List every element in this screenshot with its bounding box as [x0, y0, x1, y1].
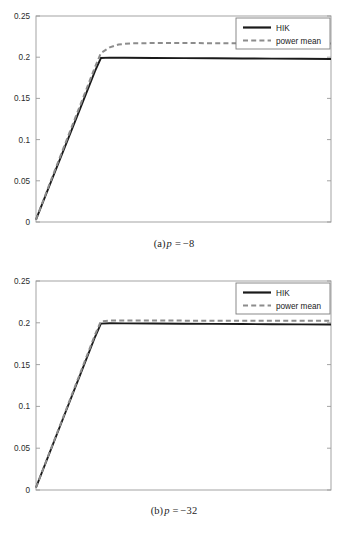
caption-a-var: p — [166, 238, 173, 249]
ytick-label-b-0: 0 — [25, 486, 30, 495]
legend-label-0-b: HIK — [276, 289, 290, 298]
chart-b: 00.050.10.150.20.25HIKpower mean — [0, 265, 348, 500]
ytick-label-b-2: 0.1 — [19, 402, 31, 411]
caption-b-prefix: (b) — [151, 505, 164, 516]
caption-a-prefix: (a) — [154, 238, 166, 249]
legend-a: HIKpower mean — [236, 18, 330, 49]
caption-a: (a)p=−8 — [0, 238, 348, 249]
plot-area-a: 00.050.10.150.20.25HIKpower mean — [0, 0, 348, 232]
legend-b: HIKpower mean — [236, 283, 330, 314]
ytick-label-a-0: 0 — [25, 218, 30, 227]
caption-b-var: p — [163, 505, 170, 516]
caption-b-eq: = — [171, 505, 181, 516]
ytick-label-a-1: 0.05 — [14, 177, 30, 186]
ytick-label-b-4: 0.2 — [19, 319, 31, 328]
figure-panel-b: 00.050.10.150.20.25HIKpower mean — [0, 265, 348, 535]
caption-b: (b)p=−32 — [0, 505, 348, 516]
chart-a: 00.050.10.150.20.25HIKpower mean — [0, 0, 348, 232]
ytick-label-a-5: 0.25 — [14, 12, 30, 21]
figure-panel-a: 00.050.10.150.20.25HIKpower mean (a)p=−8 — [0, 0, 348, 262]
caption-b-value: −32 — [181, 505, 198, 516]
ytick-label-b-3: 0.15 — [14, 361, 30, 370]
caption-a-eq: = — [173, 238, 183, 249]
ytick-label-b-1: 0.05 — [14, 444, 30, 453]
legend-label-0-a: HIK — [276, 24, 290, 33]
ytick-label-a-4: 0.2 — [19, 53, 31, 62]
legend-label-1-b: power mean — [276, 302, 322, 311]
caption-a-value: −8 — [183, 238, 194, 249]
ytick-label-b-5: 0.25 — [14, 277, 30, 286]
ytick-label-a-2: 0.1 — [19, 136, 31, 145]
ytick-label-a-3: 0.15 — [14, 94, 30, 103]
legend-label-1-a: power mean — [276, 37, 322, 46]
